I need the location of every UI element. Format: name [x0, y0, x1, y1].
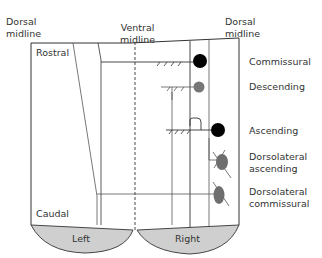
- caudal-label: Caudal: [36, 208, 69, 220]
- rostral-label: Rostral: [36, 47, 69, 59]
- dorsal-midline-left-label: Dorsal midline: [6, 16, 41, 40]
- ascending-hook: [190, 118, 201, 130]
- left-half-label: Left: [72, 233, 90, 245]
- commissural-dendrite-hatch: [157, 62, 181, 66]
- left-boundary-line: [73, 43, 97, 225]
- dorsolateral-ascending-label: Dorsolateral ascending: [249, 151, 307, 175]
- dl-commissural-soma: [214, 186, 225, 204]
- ascending-soma: [211, 123, 225, 137]
- dorsolateral-commissural-label: Dorsolateral commissural: [249, 186, 309, 210]
- descending-label: Descending: [249, 81, 305, 93]
- right-half-label: Right: [175, 233, 200, 245]
- commissural-soma: [193, 54, 207, 68]
- descending-soma: [194, 82, 205, 93]
- dl-ascending-soma: [216, 154, 228, 170]
- dorsal-midline-right-label: Dorsal midline: [225, 16, 260, 40]
- ventral-midline-label: Ventral midline: [120, 22, 155, 46]
- commissural-label: Commissural: [249, 56, 311, 68]
- ascending-label: Ascending: [249, 125, 298, 137]
- left-inner-line: [98, 43, 101, 225]
